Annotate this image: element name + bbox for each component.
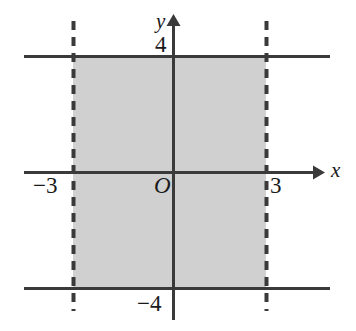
y-tick-label-minus-4: −4 <box>137 292 161 315</box>
plot-canvas <box>0 0 356 331</box>
origin-label: O <box>154 174 171 197</box>
y-axis-arrowhead-icon <box>167 14 181 26</box>
x-tick-label-minus-3: −3 <box>33 174 57 197</box>
x-axis-label: x <box>331 160 340 181</box>
x-axis-arrowhead-icon <box>313 166 325 180</box>
y-tick-label-4: 4 <box>155 33 167 56</box>
coordinate-plane-figure: y x 4 −4 −3 3 O <box>0 0 356 331</box>
x-tick-label-3: 3 <box>270 174 282 197</box>
y-axis-label: y <box>156 11 165 32</box>
